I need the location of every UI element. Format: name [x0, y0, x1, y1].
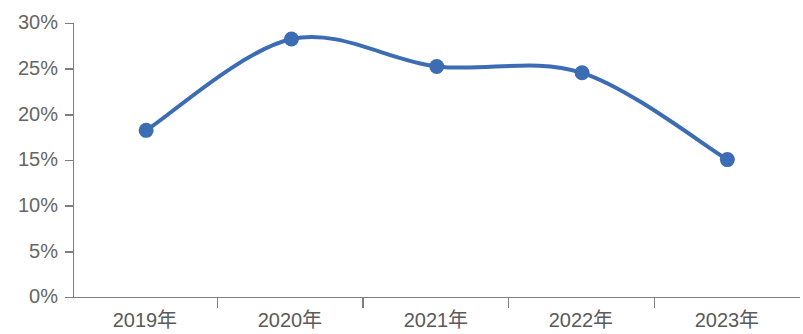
x-axis-ticks: [218, 298, 655, 309]
y-tick-label: 15%: [18, 148, 58, 170]
series-line: [146, 37, 727, 160]
data-point-marker[interactable]: [284, 32, 299, 47]
y-tick-label: 20%: [18, 103, 58, 125]
y-tick-label: 10%: [18, 194, 58, 216]
data-point-marker[interactable]: [720, 152, 735, 167]
x-tick-label: 2023年: [695, 309, 760, 331]
data-series-layer: [139, 32, 735, 168]
y-tick-label: 25%: [18, 57, 58, 79]
line-chart: 30% 25% 20% 15% 10% 5% 0% 2019年 2020年 20…: [0, 0, 803, 334]
y-axis-labels: 30% 25% 20% 15% 10% 5% 0%: [18, 11, 58, 307]
y-tick-label: 5%: [29, 240, 58, 262]
chart-canvas: 30% 25% 20% 15% 10% 5% 0% 2019年 2020年 20…: [0, 0, 803, 334]
x-tick-label: 2019年: [113, 309, 178, 331]
x-axis-labels: 2019年 2020年 2021年 2022年 2023年: [113, 309, 760, 331]
y-tick-label: 0%: [29, 285, 58, 307]
y-axis-ticks: [65, 24, 74, 298]
y-tick-label: 30%: [18, 11, 58, 33]
x-tick-label: 2022年: [549, 309, 614, 331]
data-point-marker[interactable]: [139, 123, 154, 138]
x-tick-label: 2020年: [258, 309, 323, 331]
data-point-marker[interactable]: [429, 59, 444, 74]
x-tick-label: 2021年: [404, 309, 469, 331]
data-point-marker[interactable]: [575, 65, 590, 80]
